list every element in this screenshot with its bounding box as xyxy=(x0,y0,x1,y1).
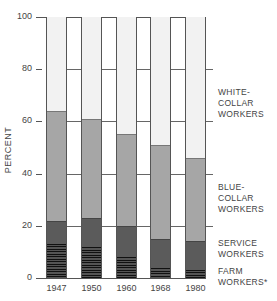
gridline xyxy=(206,69,213,70)
gridline xyxy=(102,121,116,122)
gridline xyxy=(206,121,213,122)
legend-line: SERVICE xyxy=(218,238,264,249)
bar-1947 xyxy=(46,17,67,278)
legend-line: WORKERS xyxy=(218,204,264,215)
y-tick xyxy=(36,174,42,175)
y-tick-label: 0 xyxy=(10,272,32,282)
segment-blue xyxy=(82,119,101,218)
legend-line: COLLAR xyxy=(218,193,264,204)
y-tick-label: 20 xyxy=(10,220,32,230)
segment-white xyxy=(117,17,136,134)
baseline xyxy=(36,278,206,279)
legend-line: WORKERS* xyxy=(218,277,268,288)
gridline xyxy=(171,226,185,227)
y-axis-title-text: PERCENT xyxy=(3,127,13,174)
gridline xyxy=(171,174,185,175)
segment-farm xyxy=(47,244,66,278)
segment-service xyxy=(117,226,136,257)
legend-line: FARM xyxy=(218,266,268,277)
gridline xyxy=(137,121,150,122)
gridline xyxy=(137,226,150,227)
segment-blue xyxy=(47,111,66,221)
y-tick-label: 80 xyxy=(10,63,32,73)
bar-1980 xyxy=(185,17,206,278)
legend-line: WORKERS xyxy=(218,109,264,120)
gridline xyxy=(67,174,81,175)
y-tick xyxy=(36,121,42,122)
segment-service xyxy=(186,241,205,270)
legend-farm: FARM WORKERS* xyxy=(218,266,268,288)
segment-farm xyxy=(117,257,136,278)
legend-line: WHITE- xyxy=(218,87,264,98)
segment-farm xyxy=(186,270,205,278)
segment-blue xyxy=(117,134,136,225)
gridline xyxy=(171,69,185,70)
segment-white xyxy=(186,17,205,158)
gridline xyxy=(67,121,81,122)
segment-white xyxy=(47,17,66,111)
y-tick xyxy=(36,69,42,70)
gridline xyxy=(102,69,116,70)
segment-farm xyxy=(82,247,101,278)
y-tick-label: 100 xyxy=(10,11,32,21)
segment-white xyxy=(151,17,170,145)
bar-1950 xyxy=(81,17,102,278)
x-tick-label: 1968 xyxy=(146,283,176,293)
legend-line: BLUE- xyxy=(218,182,264,193)
legend-blue-collar: BLUE- COLLAR WORKERS xyxy=(218,182,264,215)
y-tick xyxy=(36,226,42,227)
x-tick-label: 1950 xyxy=(77,283,107,293)
y-tick-label: 40 xyxy=(10,168,32,178)
legend-service: SERVICE WORKERS xyxy=(218,238,264,260)
gridline xyxy=(102,226,116,227)
gridline xyxy=(67,69,81,70)
segment-service xyxy=(151,239,170,268)
gridline xyxy=(102,174,116,175)
segment-blue xyxy=(186,158,205,242)
x-tick-label: 1960 xyxy=(112,283,142,293)
legend-line: COLLAR xyxy=(218,98,264,109)
bar-1968 xyxy=(150,17,171,278)
y-tick-label: 60 xyxy=(10,115,32,125)
gridline xyxy=(206,226,213,227)
segment-farm xyxy=(151,268,170,278)
x-tick-label: 1980 xyxy=(181,283,211,293)
x-tick-label: 1947 xyxy=(42,283,72,293)
gridline xyxy=(67,226,81,227)
segment-white xyxy=(82,17,101,119)
gridline xyxy=(137,69,150,70)
gridline xyxy=(137,174,150,175)
bar-1960 xyxy=(116,17,137,278)
legend-white-collar: WHITE- COLLAR WORKERS xyxy=(218,87,264,120)
legend-line: WORKERS xyxy=(218,249,264,260)
segment-service xyxy=(82,218,101,247)
gridline xyxy=(171,121,185,122)
gridline xyxy=(206,174,213,175)
segment-service xyxy=(47,221,66,244)
segment-blue xyxy=(151,145,170,239)
